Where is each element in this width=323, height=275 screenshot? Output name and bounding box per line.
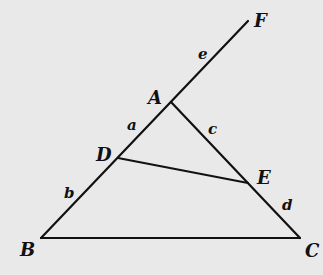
segment-label-a: a [127,116,137,134]
point-label-C: C [305,240,320,261]
triangle-diagram: A B C D E F a b c d e [0,0,323,275]
point-label-D: D [95,144,112,165]
segment-label-c: c [208,120,217,138]
side-AC [171,102,300,238]
point-label-A: A [146,87,162,108]
segment-label-e: e [198,45,208,63]
segment-label-d: d [282,196,293,214]
point-label-E: E [256,167,271,188]
point-label-B: B [19,239,35,260]
segment-label-b: b [64,184,75,202]
point-label-F: F [253,10,268,31]
